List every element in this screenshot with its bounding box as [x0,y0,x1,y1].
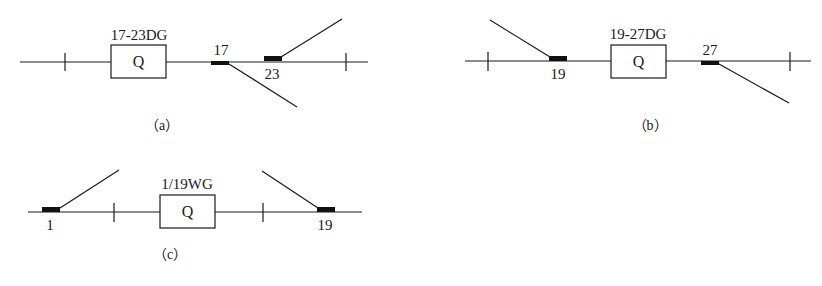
diagram-c: Q 1/19WG 1 19 （c） [28,170,362,262]
switch-number: 27 [703,42,719,58]
switch-point-marker [701,61,719,65]
switch-point-marker [264,56,282,61]
switch-point-marker [317,207,335,212]
diverging-branch-line [490,20,550,57]
diagram-a: Q 17-23DG 17 23 （a） [20,19,368,133]
switch-number: 17 [214,42,230,58]
box-label: Q [133,53,145,70]
switch-number: 19 [318,217,333,233]
switch-point-marker [549,56,567,61]
diagram-caption: （b） [633,118,668,133]
switch-point-marker [42,207,60,212]
switch-number: 1 [46,217,54,233]
diagram-b: Q 19-27DG 19 27 （b） [465,20,811,133]
switch-number: 19 [551,66,566,82]
diverging-branch-line [719,64,789,103]
diagram-caption: （c） [153,247,187,262]
section-label: 1/19WG [161,176,213,192]
diverging-branch-line [281,19,342,57]
track-diagrams-canvas: Q 17-23DG 17 23 （a） Q 19-27DG 19 27 （b） [0,0,822,286]
diverging-branch-line [60,170,119,208]
box-label: Q [633,53,645,70]
switch-number: 23 [265,66,280,82]
diverging-branch-line [229,64,297,107]
box-label: Q [182,203,194,220]
switch-point-marker [211,61,229,65]
diagram-caption: （a） [145,118,179,133]
diverging-branch-line [262,171,318,208]
section-label: 17-23DG [111,27,168,43]
section-label: 19-27DG [610,26,667,42]
